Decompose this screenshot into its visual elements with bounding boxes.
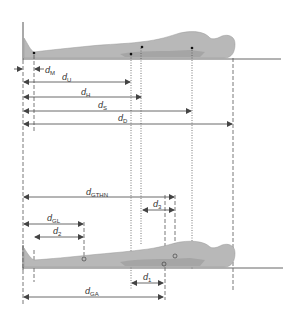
label-d2: d2 [53, 226, 62, 237]
label-dM: dM [45, 65, 55, 76]
top-landmark-s [191, 47, 194, 50]
bottom-figure [23, 241, 283, 270]
label-dU: dU [62, 72, 71, 83]
label-d3: d3 [153, 199, 162, 210]
label-dGTHN: dGTHN [86, 187, 108, 198]
top-landmark-malleolus [33, 52, 36, 55]
label-d1: d1 [143, 272, 152, 283]
top-landmark-u [130, 53, 133, 56]
label-dD: dD [118, 113, 128, 124]
label-dGA: dGA [85, 286, 99, 297]
label-dS: dS [98, 100, 107, 111]
label-dH: dH [81, 87, 90, 98]
top-figure [23, 22, 281, 60]
label-dGL: dGL [47, 213, 61, 224]
top-landmark-h [141, 46, 144, 49]
measurement-diagram: dM dU dH dS dD dGTHN d3 dGL d2 d1 dGA [0, 0, 299, 313]
